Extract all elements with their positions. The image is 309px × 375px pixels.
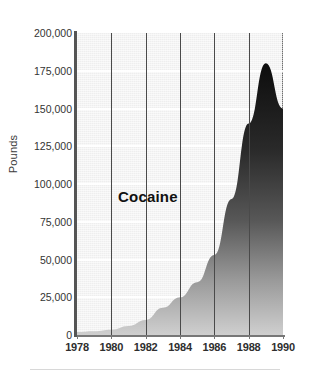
y-axis-tick-labels: 200,000175,000150,000125,000100,00075,00… <box>8 0 72 375</box>
y-axis-tick-label: 200,000 <box>10 28 72 38</box>
x-axis-tick-mark <box>214 335 215 339</box>
x-axis-tick-mark <box>111 335 112 339</box>
footer-divider <box>30 369 280 370</box>
x-axis-tick-labels: 1978198019821984198619881990 <box>0 341 309 359</box>
y-axis-tick-label: 75,000 <box>10 217 72 227</box>
x-axis-tick-mark <box>283 335 284 339</box>
area-path <box>77 63 283 335</box>
x-axis-tick-mark <box>180 335 181 339</box>
area-series-svg <box>77 33 283 335</box>
y-axis-tick-label: 50,000 <box>10 255 72 265</box>
series-label-cocaine: Cocaine <box>118 188 178 205</box>
area-series-cocaine <box>77 33 283 335</box>
y-axis-tick-label: 100,000 <box>10 179 72 189</box>
x-axis-tick-label: 1990 <box>261 341 305 353</box>
plot-area <box>77 33 283 335</box>
y-axis-tick-label: 150,000 <box>10 104 72 114</box>
x-axis-tick-mark <box>249 335 250 339</box>
y-axis-tick-label: 0 <box>10 330 72 340</box>
chart-figure: Pounds 200,000175,000150,000125,000100,0… <box>0 0 309 375</box>
y-axis-tick-label: 25,000 <box>10 292 72 302</box>
y-axis-tick-label: 125,000 <box>10 141 72 151</box>
y-axis-tick-label: 175,000 <box>10 66 72 76</box>
x-axis-tick-mark <box>77 335 78 339</box>
x-axis-tick-mark <box>146 335 147 339</box>
